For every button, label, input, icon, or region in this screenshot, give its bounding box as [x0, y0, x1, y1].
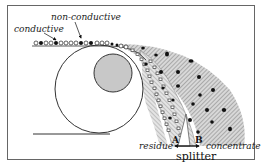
label-non-conductive: non-conductive: [51, 12, 121, 22]
pointer-conductive: [44, 33, 56, 40]
label-splitter: splitter: [176, 150, 217, 163]
label-point-b: B: [195, 135, 203, 145]
label-residue: residue: [139, 141, 173, 151]
drum: [55, 45, 143, 133]
pointer-non-conductive: [75, 22, 81, 38]
label-conductive: conductive: [14, 24, 64, 34]
separator-diagram: non-conductive conductive residue concen…: [0, 0, 266, 167]
label-point-a: A: [171, 135, 180, 145]
electrode: [94, 54, 132, 92]
